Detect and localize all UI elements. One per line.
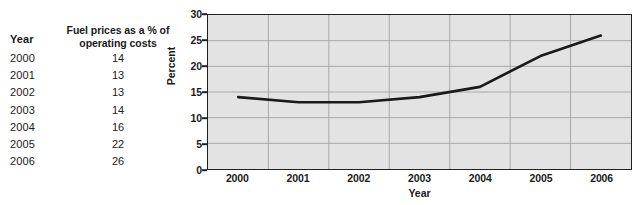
x-axis-title: Year <box>207 187 632 199</box>
column-header-line-2: operating costs <box>54 37 182 50</box>
x-axis-tick-label: 2003 <box>408 172 431 184</box>
x-axis-tick-label: 2006 <box>590 172 613 184</box>
horizontal-gridlines <box>208 41 631 144</box>
fuel-price-table: Year Fuel prices as a % of operating cos… <box>0 0 190 205</box>
cell-fuel-price-percent: 16 <box>54 121 182 133</box>
plot-area <box>207 14 632 170</box>
y-axis-tick-label: 5 <box>168 138 202 150</box>
cell-year: 2000 <box>10 52 35 64</box>
y-axis-tick-label: 15 <box>168 86 202 98</box>
cell-fuel-price-percent: 13 <box>54 69 182 81</box>
table-row: 200314 <box>0 104 190 121</box>
x-axis-tick-labels: 2000200120022003200420052006 <box>207 172 632 188</box>
x-axis-tick-label: 2005 <box>529 172 552 184</box>
table-header-row: Year Fuel prices as a % of operating cos… <box>0 12 190 48</box>
cell-fuel-price-percent: 26 <box>54 155 182 167</box>
y-axis-tick-label: 30 <box>168 8 202 20</box>
x-axis-tick-label: 2002 <box>347 172 370 184</box>
table-row: 200213 <box>0 86 190 103</box>
x-axis-tick-label: 2001 <box>287 172 310 184</box>
y-axis-tick-label: 0 <box>168 164 202 176</box>
table-body: 2000142001132002132003142004162005222006… <box>0 52 190 172</box>
fuel-price-line-chart: Percent 051015202530 2000200120022003200… <box>168 0 643 205</box>
cell-fuel-price-percent: 14 <box>54 104 182 116</box>
table-row: 200014 <box>0 52 190 69</box>
table-row: 200113 <box>0 69 190 86</box>
table-row: 200626 <box>0 155 190 172</box>
x-axis-tick-label: 2000 <box>226 172 249 184</box>
cell-fuel-price-percent: 22 <box>54 138 182 150</box>
y-axis-tick-label: 10 <box>168 112 202 124</box>
cell-year: 2003 <box>10 104 35 116</box>
cell-year: 2005 <box>10 138 35 150</box>
y-axis-tick-labels: 051015202530 <box>168 0 202 170</box>
y-axis-tick-label: 20 <box>168 60 202 72</box>
cell-fuel-price-percent: 14 <box>54 52 182 64</box>
column-header-year: Year <box>10 33 34 45</box>
y-axis-tick-label: 25 <box>168 34 202 46</box>
x-axis-tick-label: 2004 <box>469 172 492 184</box>
cell-year: 2004 <box>10 121 35 133</box>
cell-year: 2006 <box>10 155 35 167</box>
column-header-line-1: Fuel prices as a % of <box>54 24 182 37</box>
table-row: 200522 <box>0 138 190 155</box>
cell-fuel-price-percent: 13 <box>54 86 182 98</box>
cell-year: 2001 <box>10 69 35 81</box>
cell-year: 2002 <box>10 86 35 98</box>
plot-svg <box>208 15 631 169</box>
table-row: 200416 <box>0 121 190 138</box>
column-header-fuel-price-percent: Fuel prices as a % of operating costs <box>54 24 182 49</box>
